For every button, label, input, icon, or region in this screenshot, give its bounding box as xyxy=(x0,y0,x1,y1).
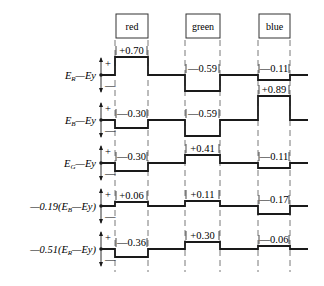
column-headers: redgreenblue xyxy=(116,14,290,38)
positive-sign: + xyxy=(105,58,111,69)
arrow-up-icon xyxy=(99,57,103,62)
arrow-down-icon xyxy=(99,219,103,224)
waveform-row-1: +—EB—Ey—0.30—0.59+0.89 xyxy=(64,84,308,138)
column-header-blue: blue xyxy=(259,14,290,38)
row-label: ER—Ey xyxy=(64,70,96,83)
waveform-rows: +—ER—Ey+0.70—0.59—0.11+—EB—Ey—0.30—0.59+… xyxy=(29,45,308,267)
positive-sign: + xyxy=(105,146,111,157)
level-value: —0.36 xyxy=(116,237,146,248)
column-header-label: green xyxy=(192,21,214,32)
row-label: EB—Ey xyxy=(64,115,96,128)
level-value: —0.11 xyxy=(259,151,289,162)
column-header-label: blue xyxy=(266,21,284,32)
arrow-down-icon xyxy=(99,133,103,138)
level-value: +0.06 xyxy=(119,190,143,201)
color-difference-waveform-diagram: redgreenblue +—ER—Ey+0.70—0.59—0.11+—EB—… xyxy=(0,0,324,286)
level-value: —0.59 xyxy=(187,108,217,119)
level-value: +0.89 xyxy=(262,84,286,95)
level-value: —0.17 xyxy=(259,194,289,205)
waveform-row-3: +——0.19(EB—Ey)+0.06+0.11—0.17 xyxy=(29,188,308,224)
column-header-label: red xyxy=(126,21,139,32)
level-value: +0.30 xyxy=(190,230,214,241)
row-label: —0.19(EB—Ey) xyxy=(29,201,96,214)
arrow-down-icon xyxy=(99,88,103,93)
arrow-down-icon xyxy=(99,262,103,267)
negative-sign: — xyxy=(104,80,116,91)
level-value: +0.41 xyxy=(190,143,214,154)
arrow-up-icon xyxy=(99,145,103,150)
level-value: —0.30 xyxy=(116,108,146,119)
column-header-red: red xyxy=(116,14,148,38)
positive-sign: + xyxy=(105,189,111,200)
waveform-row-2: +—EG—Ey—0.30+0.41—0.11 xyxy=(63,143,308,181)
level-value: —0.11 xyxy=(259,63,289,74)
row-label: EG—Ey xyxy=(63,158,96,171)
level-value: —0.30 xyxy=(116,151,146,162)
arrow-down-icon xyxy=(99,176,103,181)
level-value: —0.59 xyxy=(187,63,217,74)
positive-sign: + xyxy=(105,103,111,114)
level-value: —0.06 xyxy=(259,234,289,245)
column-header-green: green xyxy=(186,14,220,38)
waveform-row-4: +——0.51(ER—Ey)—0.36+0.30—0.06 xyxy=(29,230,308,267)
negative-sign: — xyxy=(104,211,116,222)
arrow-up-icon xyxy=(99,231,103,236)
positive-sign: + xyxy=(105,232,111,243)
arrow-up-icon xyxy=(99,188,103,193)
level-value: +0.11 xyxy=(191,189,215,200)
row-label: —0.51(ER—Ey) xyxy=(29,244,96,257)
arrow-up-icon xyxy=(99,102,103,107)
level-value: +0.70 xyxy=(119,45,143,56)
